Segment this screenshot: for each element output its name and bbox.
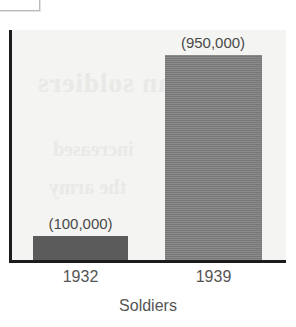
x-tick-label-1932: 1932 (33, 268, 128, 286)
bar-1939 (165, 55, 262, 260)
ghost-text-line-2: increased (53, 138, 134, 161)
ghost-text-line-3: the army (49, 176, 126, 199)
x-tick-label-1939: 1939 (165, 268, 262, 286)
bar-value-label-1939: (950,000) (163, 34, 263, 51)
x-axis-title: Soldiers (88, 297, 208, 315)
bar-1932 (33, 236, 128, 260)
y-axis-line (9, 30, 12, 263)
chart-figure: German soldiers increased the army (100,… (0, 0, 296, 327)
page-border-artifact (0, 0, 40, 11)
bar-value-label-1932: (100,000) (33, 215, 128, 232)
x-axis-line (9, 260, 286, 263)
